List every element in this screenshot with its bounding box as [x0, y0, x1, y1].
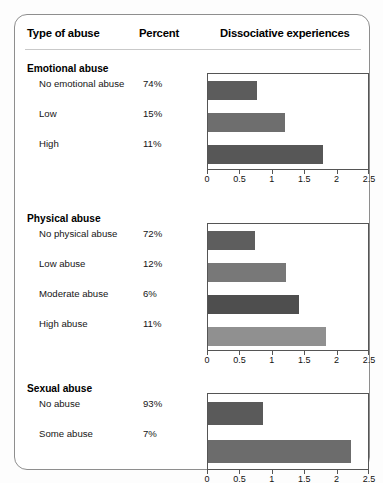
axis-tick-label: 0.5 [233, 174, 246, 184]
row-percent: 15% [143, 108, 173, 119]
bar [208, 295, 299, 314]
x-axis: 00.511.522.5 [207, 351, 369, 367]
row-percent: 6% [143, 288, 173, 299]
axis-tick-label: 2 [334, 355, 339, 365]
row-label: Low [39, 108, 57, 119]
axis-tick-label: 1 [269, 355, 274, 365]
figure-card: Type of abuse Percent Dissociative exper… [14, 14, 370, 470]
section-title: Emotional abuse [27, 63, 109, 74]
x-axis: 00.511.522.5 [207, 170, 369, 186]
axis-tick-label: 2.5 [363, 355, 376, 365]
bar [208, 231, 255, 250]
x-axis: 00.511.522.5 [207, 470, 369, 483]
row-percent: 11% [143, 318, 173, 329]
axis-tick-label: 1 [269, 174, 274, 184]
bar [208, 145, 323, 164]
row-label: High [39, 138, 59, 149]
table-header: Type of abuse Percent Dissociative exper… [15, 27, 369, 49]
bar [208, 113, 285, 132]
row-percent: 74% [143, 78, 173, 89]
figure-page: Type of abuse Percent Dissociative exper… [0, 0, 383, 483]
axis-tick-label: 1.5 [298, 474, 311, 483]
axis-tick-label: 0 [204, 355, 209, 365]
row-percent: 93% [143, 398, 173, 409]
bar-chart-plot [207, 223, 369, 351]
bar [208, 327, 326, 346]
bar [208, 263, 286, 282]
row-percent: 7% [143, 428, 173, 439]
axis-tick-label: 2 [334, 174, 339, 184]
row-label: Low abuse [39, 258, 85, 269]
row-label: Moderate abuse [39, 288, 108, 299]
bar-chart-plot [207, 393, 369, 470]
row-label: High abuse [39, 318, 88, 329]
row-label: No abuse [39, 398, 80, 409]
row-label: No emotional abuse [39, 78, 124, 89]
column-header-dissociative: Dissociative experiences [220, 27, 350, 39]
row-label: No physical abuse [39, 228, 117, 239]
axis-tick-label: 1.5 [298, 355, 311, 365]
header-divider [25, 49, 361, 50]
axis-tick-label: 0.5 [233, 355, 246, 365]
row-percent: 12% [143, 258, 173, 269]
axis-tick-label: 2 [334, 474, 339, 483]
row-percent: 72% [143, 228, 173, 239]
section-title: Physical abuse [27, 213, 101, 224]
bar [208, 81, 257, 100]
column-header-type: Type of abuse [27, 27, 100, 39]
axis-tick-label: 0 [204, 474, 209, 483]
axis-tick-label: 1 [269, 474, 274, 483]
axis-tick-label: 0 [204, 174, 209, 184]
axis-tick-label: 1.5 [298, 174, 311, 184]
section-title: Sexual abuse [27, 383, 92, 394]
axis-tick-label: 2.5 [363, 174, 376, 184]
bar [208, 402, 263, 425]
bar-chart-plot [207, 73, 369, 170]
bar [208, 440, 351, 463]
axis-tick-label: 0.5 [233, 474, 246, 483]
column-header-percent: Percent [139, 27, 179, 39]
row-percent: 11% [143, 138, 173, 149]
row-label: Some abuse [39, 428, 93, 439]
axis-tick-label: 2.5 [363, 474, 376, 483]
